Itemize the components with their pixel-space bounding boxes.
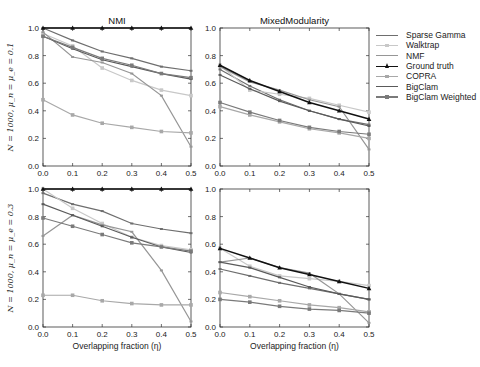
marker-square-icon (308, 303, 312, 307)
legend-label: Walktrap (406, 40, 439, 50)
y-axis-label: N = 1000, μ_n = μ_e = 0.3 (6, 204, 15, 314)
marker-square-icon (100, 57, 104, 61)
marker-square-icon (130, 126, 134, 130)
y-tick-label: 0.8 (205, 213, 217, 222)
y-tick-label: 0.6 (205, 240, 217, 249)
legend-item: BigClam (376, 81, 476, 91)
marker-square-icon (308, 277, 312, 281)
x-tick-label: 0.0 (37, 330, 49, 339)
x-tick-label: 0.0 (214, 169, 226, 178)
x-tick-label: 0.1 (244, 330, 256, 339)
marker-square-icon (160, 130, 164, 134)
x-axis-label: Overlapping fraction (η) (250, 341, 339, 351)
legend-label: NMF (406, 51, 424, 61)
marker-square-icon (189, 76, 193, 80)
legend-line-icon (376, 62, 398, 70)
y-tick-label: 1.0 (205, 185, 217, 194)
marker-square-icon (218, 105, 222, 109)
x-tick-label: 0.4 (334, 330, 346, 339)
marker-square-icon (189, 249, 193, 253)
plot-area (43, 189, 191, 327)
legend-label: BigClam Weighted (406, 92, 476, 102)
y-tick-label: 0.6 (28, 240, 40, 249)
marker-square-icon (71, 224, 75, 228)
legend-line-icon (376, 72, 398, 80)
x-tick-label: 0.2 (97, 330, 109, 339)
y-tick-label: 0.2 (205, 295, 217, 304)
x-tick-label: 0.5 (185, 330, 197, 339)
x-axis-label: Overlapping fraction (η) (73, 341, 162, 351)
plot-area (220, 189, 369, 327)
marker-square-icon (100, 299, 104, 303)
legend-item: NMF (376, 51, 476, 61)
marker-square-icon (367, 137, 371, 141)
x-tick-label: 0.5 (363, 330, 375, 339)
legend-item: BigClam Weighted (376, 92, 476, 102)
marker-square-icon (367, 311, 371, 315)
marker-square-icon (248, 295, 252, 299)
marker-square-icon (189, 303, 193, 307)
y-tick-label: 0.4 (28, 107, 40, 116)
marker-square-icon (367, 110, 371, 114)
marker-square-icon (337, 309, 341, 313)
x-tick-label: 0.3 (126, 330, 138, 339)
y-tick-label: 0.4 (205, 268, 217, 277)
y-tick-label: 0.2 (205, 134, 217, 143)
legend-item: Sparse Gamma (376, 30, 476, 40)
x-tick-label: 0.5 (185, 169, 197, 178)
y-tick-label: 1.0 (205, 24, 217, 33)
marker-square-icon (100, 66, 104, 70)
legend-line-icon (376, 31, 398, 39)
x-tick-label: 0.2 (274, 169, 286, 178)
legend-item: Ground truth (376, 61, 476, 71)
y-tick-label: 0.0 (205, 323, 217, 332)
x-tick-label: 0.1 (244, 169, 256, 178)
panel-title: NMI (108, 15, 125, 26)
marker-square-icon (130, 79, 134, 83)
marker-square-icon (308, 307, 312, 311)
y-tick-label: 0.2 (28, 295, 40, 304)
marker-square-icon (218, 101, 222, 105)
marker-square-icon (130, 63, 134, 67)
marker-square-icon (71, 293, 75, 297)
x-tick-label: 0.2 (274, 330, 286, 339)
marker-square-icon (218, 298, 222, 302)
y-tick-label: 0.8 (205, 52, 217, 61)
marker-square-icon (130, 241, 134, 245)
x-tick-label: 0.3 (304, 169, 316, 178)
marker-square-icon (160, 245, 164, 249)
marker-square-icon (248, 110, 252, 114)
marker-square-icon (100, 121, 104, 125)
marker-square-icon (71, 46, 75, 50)
marker-square-icon (218, 291, 222, 295)
marker-square-icon (189, 94, 193, 98)
y-tick-label: 0.2 (28, 134, 40, 143)
marker-square-icon (41, 98, 45, 102)
legend-line-icon (376, 52, 398, 60)
x-tick-label: 0.5 (363, 169, 375, 178)
y-tick-label: 0.0 (28, 162, 40, 171)
marker-square-icon (100, 233, 104, 237)
x-tick-label: 0.1 (67, 330, 79, 339)
marker-square-icon (308, 126, 312, 130)
x-tick-label: 0.2 (97, 169, 109, 178)
marker-square-icon (278, 119, 282, 123)
x-tick-label: 0.0 (37, 169, 49, 178)
legend-item: Walktrap (376, 40, 476, 50)
y-tick-label: 1.0 (28, 185, 40, 194)
legend-label: Ground truth (406, 61, 454, 71)
x-tick-label: 0.0 (214, 330, 226, 339)
y-tick-label: 0.6 (205, 79, 217, 88)
marker-square-icon (337, 130, 341, 134)
y-tick-label: 0.8 (28, 52, 40, 61)
y-tick-label: 1.0 (28, 24, 40, 33)
marker-square-icon (160, 72, 164, 76)
legend: Sparse GammaWalktrapNMFGround truthCOPRA… (376, 30, 476, 102)
legend-label: COPRA (406, 71, 436, 81)
marker-square-icon (160, 303, 164, 307)
x-tick-label: 0.4 (156, 169, 168, 178)
legend-label: BigClam (406, 82, 438, 92)
plot-area (43, 28, 191, 166)
x-tick-label: 0.3 (304, 330, 316, 339)
x-tick-label: 0.3 (126, 169, 138, 178)
